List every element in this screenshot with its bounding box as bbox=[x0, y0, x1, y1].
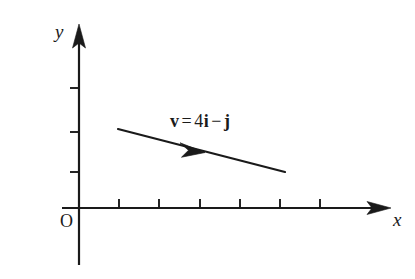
vector-symbol-v: v bbox=[170, 111, 180, 131]
y-axis-label: y bbox=[55, 22, 63, 41]
coefficient-i: 4 bbox=[194, 111, 204, 131]
x-axis-ticks bbox=[119, 199, 320, 208]
y-axis bbox=[73, 24, 86, 265]
origin-label: O bbox=[60, 212, 73, 230]
x-axis-label: x bbox=[393, 210, 401, 229]
unit-vector-j: j bbox=[224, 111, 231, 131]
minus-sign: − bbox=[211, 111, 222, 131]
equals-sign: = bbox=[182, 111, 193, 131]
y-axis-ticks bbox=[70, 88, 79, 172]
vector-v-line bbox=[118, 129, 285, 172]
vector-v bbox=[118, 129, 285, 172]
x-axis bbox=[62, 202, 391, 215]
vector-equation-label: v = 4i − j bbox=[170, 112, 230, 130]
